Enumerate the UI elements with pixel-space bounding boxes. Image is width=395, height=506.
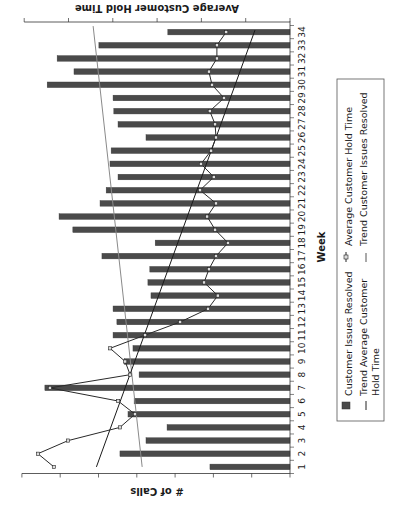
week-label: 10 [297, 342, 307, 354]
bar-week-21 [100, 201, 290, 207]
week-label: 17 [297, 250, 307, 261]
week-label: 24 [297, 158, 307, 170]
week-label: 22 [297, 184, 307, 195]
square-marker-icon [214, 123, 217, 126]
square-marker-icon [179, 320, 182, 323]
square-marker-icon [109, 347, 112, 350]
bar-week-5 [128, 411, 290, 417]
square-marker-icon [124, 360, 127, 363]
y2-axis-title: Average Customer Hold Time [75, 3, 239, 14]
bar-week-27 [118, 122, 290, 128]
bar-week-8 [139, 372, 290, 378]
legend-label-line1: Trend Average Customer [358, 279, 369, 397]
legend-item-trend-issues-resolved: Trend Customer Issues Resolved [358, 92, 369, 262]
week-label: 25 [297, 145, 307, 156]
week-label: 27 [297, 119, 307, 130]
bar-week-12 [117, 319, 290, 325]
bar-week-30 [47, 82, 290, 88]
week-label: 15 [297, 277, 307, 288]
square-marker-icon [144, 334, 147, 337]
bar-week-33 [99, 42, 290, 48]
bar-week-26 [146, 135, 290, 141]
legend-item-average-hold-time: Average Customer Hold Time [343, 107, 354, 262]
bar-week-28 [114, 108, 290, 114]
bar-week-6 [134, 398, 290, 404]
week-label: 21 [297, 198, 307, 209]
bar-swatch-icon [342, 402, 350, 409]
week-label: 13 [297, 303, 307, 314]
square-marker-icon [215, 44, 218, 47]
bar-week-29 [113, 95, 290, 101]
week-label: 5 [297, 411, 307, 417]
y-axis-title: # of Calls [130, 486, 184, 497]
bar-series-customer-issues-resolved [45, 29, 290, 469]
week-label: 29 [297, 92, 307, 104]
square-marker-icon [48, 386, 51, 389]
bar-week-15 [148, 280, 290, 286]
square-marker-icon [344, 255, 348, 259]
square-marker-icon [198, 189, 201, 192]
bar-week-25 [111, 148, 290, 154]
square-marker-icon [202, 281, 205, 284]
legend-label: Trend Customer Issues Resolved [358, 92, 369, 247]
bar-week-1 [210, 464, 290, 470]
bar-week-2 [120, 451, 290, 457]
square-marker-icon [199, 162, 202, 165]
square-marker-icon [222, 96, 225, 99]
bar-week-9 [124, 359, 290, 365]
square-marker-icon [215, 57, 218, 60]
square-marker-icon [226, 241, 229, 244]
bar-week-23 [118, 174, 290, 180]
bar-week-10 [133, 346, 290, 352]
square-marker-icon [208, 110, 211, 113]
combo-chart: 1234567891011121314151617181920212223242… [0, 0, 395, 506]
week-label: 19 [297, 224, 307, 236]
square-marker-icon [225, 30, 228, 33]
week-label: 1 [297, 464, 307, 470]
square-marker-icon [206, 215, 209, 218]
week-label: 11 [297, 329, 307, 340]
bar-week-4 [167, 425, 290, 431]
square-marker-icon [36, 452, 39, 455]
week-label: 31 [297, 66, 307, 77]
week-label: 14 [297, 290, 307, 302]
bar-week-31 [74, 69, 290, 75]
square-marker-icon [212, 175, 215, 178]
week-label: 26 [297, 132, 307, 144]
week-label: 28 [297, 105, 307, 117]
square-marker-icon [214, 136, 217, 139]
square-marker-icon [133, 413, 136, 416]
legend-label: Average Customer Hold Time [343, 107, 354, 246]
square-marker-icon [118, 426, 121, 429]
square-marker-icon [207, 70, 210, 73]
week-label: 18 [297, 237, 307, 249]
bar-week-3 [146, 438, 290, 444]
week-label: 4 [297, 424, 307, 430]
week-tick-labels: 1234567891011121314151617181920212223242… [297, 26, 307, 470]
square-marker-icon [214, 202, 217, 205]
bar-week-20 [59, 214, 290, 220]
week-label: 20 [297, 211, 307, 223]
week-label: 3 [297, 438, 307, 444]
week-label: 32 [297, 53, 307, 64]
square-marker-icon [210, 149, 213, 152]
week-label: 12 [297, 316, 307, 327]
week-label: 34 [297, 26, 307, 38]
square-marker-icon [66, 439, 69, 442]
square-marker-icon [206, 307, 209, 310]
square-marker-icon [207, 268, 210, 271]
square-marker-icon [214, 228, 217, 231]
legend-item-customer-issues-resolved: Customer Issues Resolved [342, 271, 354, 409]
week-label: 33 [297, 40, 307, 51]
week-label: 7 [297, 385, 307, 391]
chart-canvas: 1234567891011121314151617181920212223242… [0, 0, 395, 506]
square-marker-icon [117, 399, 120, 402]
week-label: 16 [297, 263, 307, 275]
bar-week-18 [155, 240, 290, 246]
bar-week-17 [102, 253, 290, 259]
week-label: 9 [297, 358, 307, 364]
square-marker-icon [216, 294, 219, 297]
legend: Customer Issues Resolved Average Custome… [337, 79, 384, 421]
bar-week-16 [150, 266, 290, 272]
legend-label: Customer Issues Resolved [343, 271, 354, 396]
